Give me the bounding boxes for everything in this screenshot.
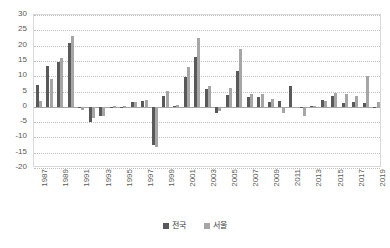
bar [92,107,95,118]
bar [345,94,348,107]
bar [229,88,232,107]
bars-layer [34,15,380,166]
x-axis-tick-label: 2007 [252,169,260,187]
bar [155,107,158,147]
x-axis-tick-label: 2009 [273,169,281,187]
y-axis-tick-label: 20 [18,41,27,49]
bar [120,107,123,108]
bar [218,107,221,111]
bar [239,49,242,107]
bar [102,107,105,116]
y-axis-tick-label: 5 [23,87,27,95]
bar [176,105,179,107]
x-axis-tick-label: 1995 [126,169,134,187]
x-axis-tick-label: 2011 [294,169,302,186]
bar [123,106,126,107]
bar [197,38,200,107]
bar [303,107,306,116]
bar [250,94,253,107]
x-axis-tick-label: 1993 [105,169,113,187]
bar [261,94,264,107]
y-axis-tick-label: 10 [18,71,27,79]
bar [271,99,274,106]
x-axis-tick-label: 1999 [168,169,176,187]
bar [60,58,63,107]
legend-label: 전국 [172,221,186,230]
x-axis-tick-label: 2005 [231,169,239,187]
y-axis-tick-label: -5 [20,117,27,125]
y-axis-tick-label: 30 [18,10,27,18]
bar [373,107,376,108]
x-axis-tick-label: 1987 [41,169,49,187]
chart-legend: 전국서울 [0,221,390,230]
y-axis-tick-label: 15 [18,56,27,64]
y-axis: 302520151050-5-10-15-20 [0,14,30,167]
x-axis-tick-label: 1997 [147,169,155,187]
bar [282,107,285,113]
bar-chart: 302520151050-5-10-15-20 1987198919911993… [0,0,390,248]
bar [334,93,337,107]
y-axis-tick-label: 25 [18,25,27,33]
y-axis-tick-label: 0 [23,102,27,110]
bar [355,96,358,107]
x-axis-tick-label: 1991 [83,169,91,187]
x-axis-tick-label: 2001 [189,169,197,187]
bar [166,91,169,107]
y-axis-tick-label: -15 [15,148,27,156]
bar [324,101,327,107]
bar [377,102,380,107]
x-axis-tick-label: 2019 [379,169,387,187]
bar [71,36,74,106]
bar [292,107,295,108]
x-axis-tick-label: 2013 [315,169,323,187]
plot-area [33,14,381,167]
y-axis-tick-label: -10 [15,132,27,140]
x-axis-tick-label: 1989 [62,169,70,187]
bar [313,106,316,107]
bar [208,86,211,107]
bar [39,101,42,107]
bar [187,67,190,106]
bar [134,102,137,107]
bar [81,107,84,110]
bar [289,86,292,107]
legend-swatch-icon [204,223,210,229]
bar [145,100,148,106]
x-axis-tick-label: 2015 [337,169,345,187]
legend-label: 서울 [213,221,227,230]
legend-item[interactable]: 전국 [163,221,186,230]
legend-item[interactable]: 서울 [204,221,227,230]
y-axis-tick-label: -20 [15,163,27,171]
bar [113,106,116,107]
x-axis-tick-label: 2017 [358,169,366,187]
x-axis-tick-label: 2003 [210,169,218,187]
bar [366,76,369,107]
bar [50,79,53,107]
x-axis: 1987198919911993199519971999200120032005… [33,169,381,211]
legend-swatch-icon [163,223,169,229]
